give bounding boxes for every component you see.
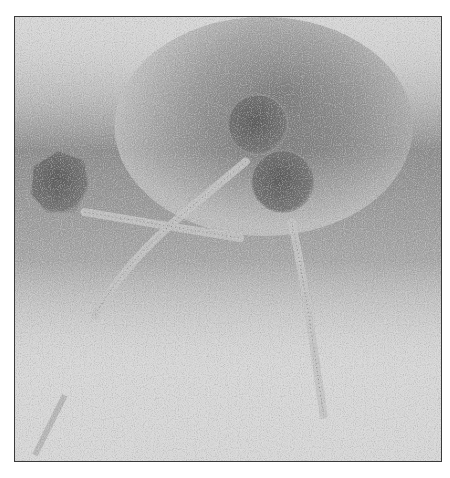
micrograph-frame [14, 16, 442, 462]
phage-micrograph [15, 17, 441, 461]
